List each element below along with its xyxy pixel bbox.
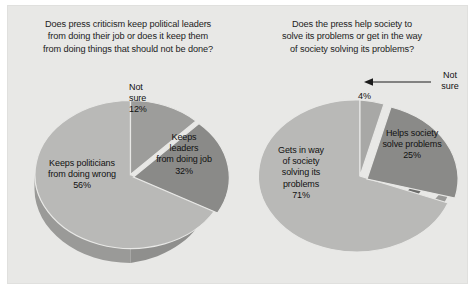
label-line: of society xyxy=(262,156,340,167)
label-not-sure-left: Not sure 12% xyxy=(129,82,169,116)
label-helps-society-solve-problems: Helps society solve problems 25% xyxy=(366,128,458,162)
label-keeps-politicians-from-doing-wrong: Keeps politicians from doing wrong 56% xyxy=(26,158,138,192)
label-value: 4% xyxy=(358,91,388,102)
label-line: Keeps politicians xyxy=(26,158,138,169)
label-not-sure-value-right: 4% xyxy=(358,91,388,102)
chart-panel: Does press criticism keep political lead… xyxy=(8,6,467,283)
press-help-society-chart: Does the press help society to solve its… xyxy=(236,6,468,283)
label-line: sure xyxy=(432,81,468,92)
label-not-sure-right: Not sure xyxy=(432,70,468,92)
label-value: 56% xyxy=(26,180,138,191)
label-line: Keeps xyxy=(141,132,227,143)
label-keeps-leaders-from-doing-job: Keeps leaders from doing job 32% xyxy=(141,132,227,177)
figure-container: Does press criticism keep political lead… xyxy=(0,0,475,290)
label-line: Helps society xyxy=(366,128,458,139)
label-line: solve problems xyxy=(366,139,458,150)
label-line: sure xyxy=(129,93,169,104)
label-gets-in-way-of-society-solving-problems: Gets in way of society solving its probl… xyxy=(262,145,340,201)
label-line: leaders xyxy=(141,143,227,154)
not-sure-callout-arrow xyxy=(364,78,431,86)
label-line: solving its xyxy=(262,167,340,178)
label-value: 32% xyxy=(141,166,227,177)
label-value: 12% xyxy=(129,104,169,115)
label-line: Not xyxy=(129,82,169,93)
label-line: from doing wrong xyxy=(26,169,138,180)
label-line: problems xyxy=(262,179,340,190)
label-line: Gets in way xyxy=(262,145,340,156)
press-criticism-chart: Does press criticism keep political lead… xyxy=(12,6,244,283)
label-value: 25% xyxy=(366,150,458,161)
label-line: Not xyxy=(432,70,468,81)
label-value: 71% xyxy=(262,190,340,201)
label-line: from doing job xyxy=(141,154,227,165)
